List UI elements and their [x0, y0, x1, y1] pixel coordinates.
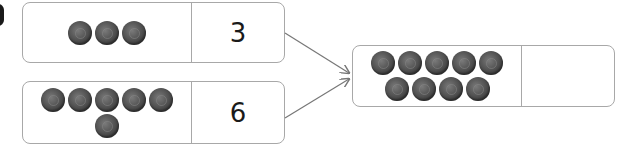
arrows [0, 0, 639, 152]
arrow-icon [285, 79, 349, 118]
arrow-icon [285, 33, 349, 73]
